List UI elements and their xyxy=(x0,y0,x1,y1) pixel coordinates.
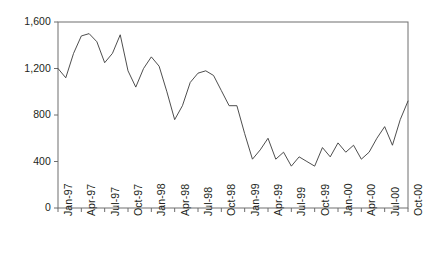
y-axis-tick-label: 400 xyxy=(33,155,51,167)
plot-frame xyxy=(58,22,408,208)
x-axis-tick-label: Jan-00 xyxy=(342,183,354,216)
y-axis-tick-label: 800 xyxy=(33,108,51,120)
y-axis-ticks xyxy=(54,22,58,208)
x-axis-tick-label: Jul-97 xyxy=(109,187,121,216)
x-axis-tick-label: Oct-97 xyxy=(132,184,144,216)
series-line-polyline xyxy=(58,34,408,167)
data-series xyxy=(58,34,408,167)
x-axis-tick-label: Jul-99 xyxy=(295,187,307,216)
chart-plot-area xyxy=(0,0,433,272)
x-axis-tick-label: Apr-99 xyxy=(272,184,284,216)
x-axis-tick-label: Oct-00 xyxy=(412,184,424,216)
x-axis-tick-label: Jul-98 xyxy=(202,187,214,216)
x-axis-tick-label: Apr-97 xyxy=(85,184,97,216)
x-axis-tick-label: Apr-00 xyxy=(365,184,377,216)
y-axis-tick-label: 0 xyxy=(45,201,51,213)
line-chart: 04008001,2001,600 Jan-97Apr-97Jul-97Oct-… xyxy=(0,0,433,272)
x-axis-tick-label: Oct-99 xyxy=(319,184,331,216)
x-axis-tick-label: Oct-98 xyxy=(225,184,237,216)
y-axis-tick-label: 1,600 xyxy=(24,15,51,27)
x-axis-tick-label: Jul-00 xyxy=(389,187,401,216)
y-axis-tick-label: 1,200 xyxy=(24,62,51,74)
x-axis-tick-label: Jan-97 xyxy=(62,183,74,216)
x-axis-tick-label: Jan-99 xyxy=(249,183,261,216)
x-axis-tick-label: Apr-98 xyxy=(179,184,191,216)
x-axis-tick-label: Jan-98 xyxy=(155,183,167,216)
